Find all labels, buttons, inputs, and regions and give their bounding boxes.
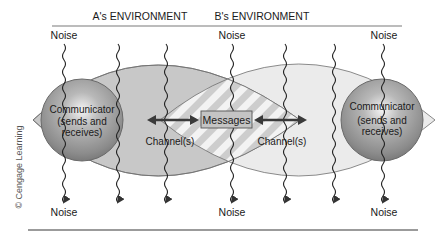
b-environment-label: B's ENVIRONMENT xyxy=(215,10,310,22)
noise-top-left: Noise xyxy=(51,29,78,41)
messages-label: Messages xyxy=(203,114,251,126)
messages-box: Messages xyxy=(201,111,252,128)
noise-top-center: Noise xyxy=(219,29,246,41)
copyright-credit: © Cengage Learning xyxy=(14,125,24,208)
communicator-a-detail-2: receives) xyxy=(62,127,103,138)
noise-bottom-right: Noise xyxy=(371,206,398,218)
noise-bottom-left: Noise xyxy=(51,206,78,218)
communicator-a: Communicator (sends and receives) xyxy=(41,79,123,161)
noise-bottom-center: Noise xyxy=(219,206,246,218)
a-environment-label: A's ENVIRONMENT xyxy=(93,10,188,22)
communicator-a-name: Communicator xyxy=(49,104,115,115)
communication-model-diagram: A's ENVIRONMENT B's ENVIRONMENT Communic… xyxy=(0,0,440,237)
channel-label-left: Channel(s) xyxy=(146,136,195,147)
channel-label-right: Channel(s) xyxy=(258,136,307,147)
noise-top-right: Noise xyxy=(371,29,398,41)
